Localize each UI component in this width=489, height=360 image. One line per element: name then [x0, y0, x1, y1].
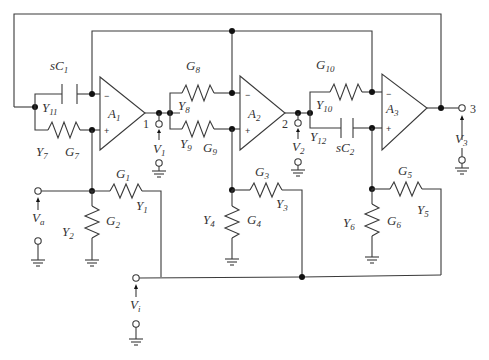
- terminal-V2: [295, 120, 301, 126]
- terminal-Vi: [133, 275, 139, 281]
- resistor-G9: [182, 121, 214, 137]
- resistor-G8: [182, 85, 214, 101]
- ground-icon: [225, 259, 239, 265]
- Vi-label: Vi: [130, 297, 141, 314]
- plus-sign: +: [104, 126, 109, 136]
- wire: [170, 113, 182, 129]
- G9-label: G9: [203, 140, 217, 157]
- resistor-G5: [390, 182, 422, 196]
- Y3-label: Y3: [276, 196, 288, 213]
- node-2-label: 2: [282, 117, 288, 131]
- sC1-label: sC1: [50, 58, 68, 75]
- arrow-head-icon: [296, 128, 300, 132]
- terminal-Va: [35, 188, 41, 194]
- wire: [142, 191, 161, 277]
- plus-sign: +: [245, 126, 250, 136]
- ground-icon: [152, 171, 166, 177]
- sC2-label: sC2: [336, 140, 355, 157]
- G8-label: G8: [186, 58, 200, 75]
- opamp-A3-label: A3: [385, 101, 399, 118]
- terminal-V2-ground: [295, 159, 301, 165]
- vi-bus-wire: [139, 275, 441, 278]
- minus-sign: −: [104, 91, 109, 101]
- Y2-label: Y2: [62, 224, 74, 241]
- arrow-head-icon: [36, 197, 40, 202]
- junction-dot: [89, 91, 95, 97]
- terminal-V1-ground: [156, 160, 162, 166]
- ground-icon: [31, 260, 45, 266]
- resistor-G10: [330, 84, 362, 100]
- ground-icon: [455, 168, 469, 174]
- node-3-label: 3: [470, 102, 476, 116]
- G7-label: G7: [65, 144, 79, 161]
- junction-dot: [229, 28, 235, 34]
- Y8-label: Y8: [178, 98, 190, 115]
- minus-sign: −: [386, 89, 391, 99]
- resistor-G6: [365, 204, 379, 236]
- opamp-A2: [240, 76, 285, 150]
- arrow-head-icon: [157, 129, 161, 133]
- Y4-label: Y4: [203, 212, 215, 229]
- Y11-label: Y11: [42, 100, 58, 117]
- arrow-head-icon: [460, 115, 464, 120]
- Y6-label: Y6: [343, 215, 355, 232]
- G5-label: G5: [398, 163, 412, 180]
- plus-sign: +: [386, 124, 391, 134]
- resistor-G1: [110, 184, 142, 198]
- resistor-G7: [48, 122, 80, 138]
- Y7-label: Y7: [36, 144, 48, 161]
- Y5-label: Y5: [417, 202, 429, 219]
- arrow-head-icon: [134, 284, 138, 289]
- opamp-A2-label: A2: [247, 106, 261, 123]
- circuit-diagram: − + A1 1 V1 − + A2 2 V2 −: [0, 0, 489, 360]
- Va-label: Va: [32, 210, 45, 227]
- opamp-A1-label: A1: [107, 106, 120, 123]
- resistor-G3: [250, 183, 282, 197]
- wire: [310, 113, 341, 128]
- node-1-label: 1: [143, 117, 149, 131]
- G3-label: G3: [255, 164, 269, 181]
- junction-dot: [369, 89, 375, 95]
- Y9-label: Y9: [180, 136, 192, 153]
- G2-label: G2: [106, 213, 120, 230]
- junction-dot: [438, 105, 444, 111]
- G1-label: G1: [116, 166, 130, 183]
- V3-label: V3: [455, 131, 468, 148]
- opamp-A1: [100, 77, 145, 150]
- G4-label: G4: [247, 212, 261, 229]
- terminal-Va-ground: [35, 238, 41, 244]
- ground-icon: [85, 260, 99, 266]
- terminal-V1: [156, 121, 162, 127]
- ground-icon: [291, 170, 305, 176]
- G6-label: G6: [387, 213, 401, 230]
- resistor-G2: [85, 206, 99, 238]
- Y1-label: Y1: [136, 198, 148, 215]
- terminal-V3-ground: [459, 157, 465, 163]
- V1-label: V1: [153, 141, 165, 158]
- ground-icon: [129, 339, 143, 345]
- minus-sign: −: [245, 90, 250, 100]
- V2-label: V2: [292, 139, 305, 156]
- wire: [422, 189, 441, 275]
- terminal-Vi-ground: [133, 321, 139, 327]
- terminal-node-3: [459, 105, 465, 111]
- Y10-label: Y10: [316, 97, 333, 114]
- junction-dot: [229, 90, 235, 96]
- resistor-G4: [225, 206, 239, 238]
- Y12-label: Y12: [310, 129, 327, 146]
- G10-label: G10: [316, 57, 335, 74]
- ground-icon: [365, 257, 379, 263]
- junction-dot: [299, 274, 305, 280]
